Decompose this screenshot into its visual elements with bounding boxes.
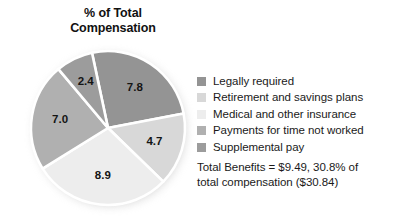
pie-chart: 7.84.78.97.02.4 <box>26 46 194 214</box>
pie-chart-svg: 7.84.78.97.02.4 <box>26 46 194 214</box>
legend-item-retirement-and-savings-plans[interactable]: Retirement and savings plans <box>197 90 397 107</box>
legend-swatch-icon <box>197 143 206 152</box>
legend-item-medical-and-other-insurance[interactable]: Medical and other insurance <box>197 106 397 123</box>
legend-item-legally-required[interactable]: Legally required <box>197 73 397 90</box>
legend-item-label: Medical and other insurance <box>213 108 356 121</box>
pie-slice-group <box>31 51 185 205</box>
chart-footnote-line-2: total compensation ($30.84) <box>197 175 397 190</box>
pie-slice-value-label: 8.9 <box>95 169 111 181</box>
legend-item-label: Retirement and savings plans <box>213 91 363 104</box>
chart-title-line-2: Compensation <box>38 21 188 36</box>
chart-footnote: Total Benefits = $9.49, 30.8% of total c… <box>197 160 397 190</box>
chart-legend: Legally required Retirement and savings … <box>197 73 397 156</box>
legend-swatch-icon <box>197 93 206 102</box>
pie-slice-value-label: 7.8 <box>127 81 144 93</box>
legend-swatch-icon <box>197 110 206 119</box>
chart-footnote-line-1: Total Benefits = $9.49, 30.8% of <box>197 160 397 175</box>
legend-swatch-icon <box>197 126 206 135</box>
chart-title: % of Total Compensation <box>38 6 188 36</box>
chart-title-line-1: % of Total <box>38 6 188 21</box>
pie-slice-value-label: 2.4 <box>78 75 95 87</box>
pie-chart-figure: % of Total Compensation 7.84.78.97.02.4 … <box>0 0 402 219</box>
pie-slice-value-label: 4.7 <box>146 135 162 147</box>
legend-item-payments-for-time-not-worked[interactable]: Payments for time not worked <box>197 123 397 140</box>
legend-item-label: Legally required <box>213 75 294 88</box>
legend-item-supplemental-pay[interactable]: Supplemental pay <box>197 139 397 156</box>
legend-item-label: Supplemental pay <box>213 141 304 154</box>
legend-swatch-icon <box>197 77 206 86</box>
pie-slice-value-label: 7.0 <box>52 113 68 125</box>
legend-item-label: Payments for time not worked <box>213 124 364 137</box>
